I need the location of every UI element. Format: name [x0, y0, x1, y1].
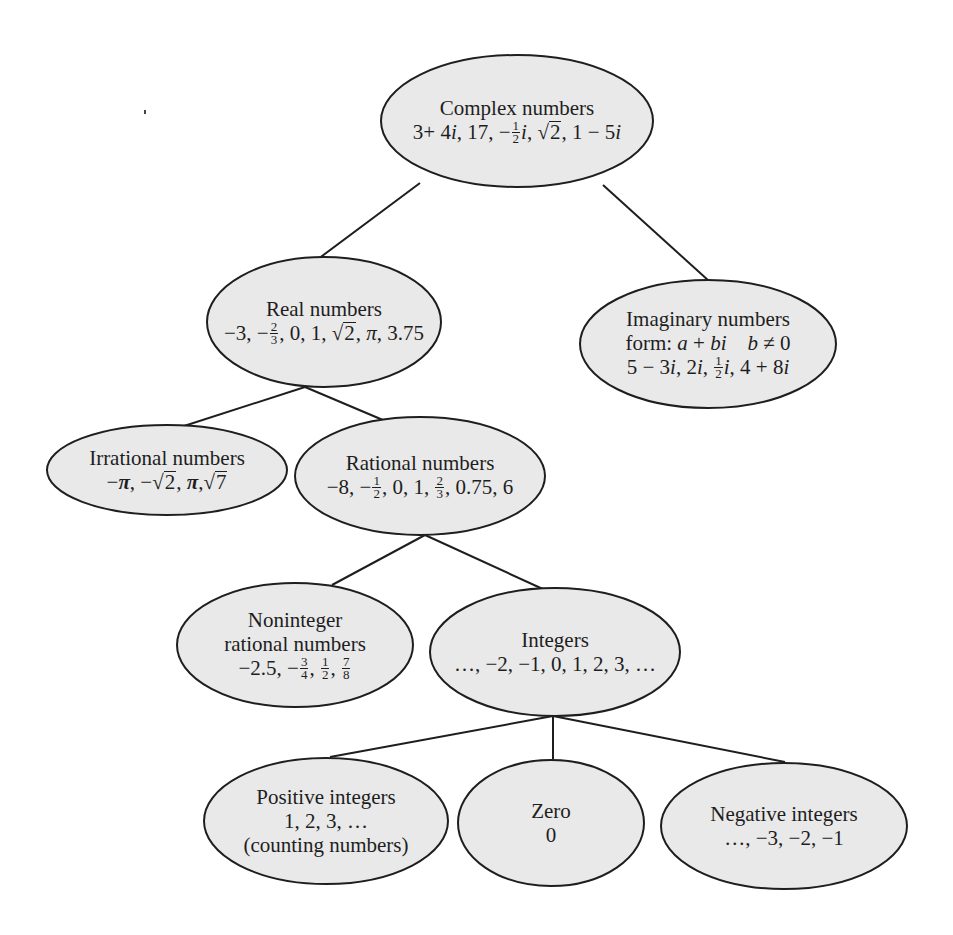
variable-b: b: [748, 331, 759, 355]
node-examples: …, −3, −2, −1: [724, 826, 844, 850]
square-root: √7: [203, 470, 227, 494]
node-label: Irrational numbers: [89, 446, 245, 470]
text-fragment: , 17, −: [457, 120, 511, 144]
pi-symbol: π: [118, 470, 129, 494]
node-imaginary-numbers: Imaginary numbers form: a + bi b ≠ 0 5 −…: [580, 280, 836, 408]
node-integers: Integers …, −2, −1, 0, 1, 2, 3, …: [430, 588, 680, 716]
pi-symbol: π: [187, 470, 198, 494]
square-root: √2: [152, 470, 176, 494]
imaginary-unit: i: [783, 355, 789, 379]
imaginary-unit: i: [615, 120, 621, 144]
node-examples: −π, −√2, π,√7: [107, 470, 228, 494]
text-fragment: 3+ 4: [413, 120, 451, 144]
radicand: 2: [343, 322, 356, 343]
node-examples: 1, 2, 3, …: [284, 809, 368, 833]
text-fragment: , 2: [676, 355, 697, 379]
node-rational-numbers: Rational numbers −8, −12, 0, 1, 23, 0.75…: [295, 417, 545, 535]
fraction: 12: [321, 656, 330, 681]
variable-a: a: [677, 331, 688, 355]
fraction: 12: [512, 120, 521, 145]
node-positive-integers: Positive integers 1, 2, 3, … (counting n…: [204, 758, 448, 884]
node-examples: 0: [546, 823, 557, 847]
edge-integers-positive: [330, 716, 553, 757]
text-fragment: −3, −: [224, 321, 269, 345]
denominator: 2: [714, 368, 723, 380]
spacer: [727, 331, 748, 355]
edge-rational-integers: [425, 535, 545, 590]
radicand: 2: [164, 471, 177, 492]
denominator: 3: [435, 488, 444, 500]
node-examples: −3, −23, 0, 1, √2, π, 3.75: [224, 321, 424, 348]
text-fragment: 5 − 3: [627, 355, 670, 379]
node-label: Imaginary numbers: [626, 307, 790, 331]
pi-symbol: π: [366, 321, 377, 345]
radicand: 2: [549, 121, 562, 142]
fraction: 23: [270, 321, 279, 346]
text-fragment: −8, −: [327, 475, 372, 499]
text-fragment: ,: [356, 321, 367, 345]
node-examples: 3+ 4i, 17, −12i, √2, 1 − 5i: [413, 120, 621, 147]
node-label: Zero: [531, 799, 571, 823]
square-root: √2: [332, 321, 356, 345]
text-fragment: ,: [527, 120, 538, 144]
text-fragment: , 0, 1,: [382, 475, 435, 499]
text-fragment: ,: [309, 656, 320, 680]
node-noninteger-rational-numbers: Noninteger rational numbers −2.5, −34, 1…: [177, 583, 413, 707]
text-fragment: +: [688, 331, 710, 355]
edge-rational-noninteger: [332, 535, 425, 585]
node-note: (counting numbers): [243, 833, 408, 857]
text-fragment: , 0.75, 6: [445, 475, 513, 499]
text-fragment: ≠ 0: [758, 331, 791, 355]
node-zero: Zero 0: [458, 760, 644, 886]
node-label-line2: rational numbers: [224, 632, 366, 656]
edge-real-irrational: [184, 387, 305, 426]
node-examples: …, −2, −1, 0, 1, 2, 3, …: [454, 652, 656, 676]
text-fragment: −: [107, 470, 119, 494]
fraction: 12: [714, 355, 723, 380]
fraction: 34: [300, 656, 309, 681]
denominator: 2: [321, 669, 330, 681]
node-label: Negative integers: [710, 802, 858, 826]
radicand: 7: [215, 471, 228, 492]
node-complex-numbers: Complex numbers 3+ 4i, 17, −12i, √2, 1 −…: [381, 55, 653, 187]
edge-complex-real: [306, 183, 420, 268]
node-form: form: a + bi b ≠ 0: [625, 331, 790, 355]
fraction: 78: [342, 656, 351, 681]
denominator: 4: [300, 669, 309, 681]
node-real-numbers: Real numbers −3, −23, 0, 1, √2, π, 3.75: [207, 257, 441, 387]
node-examples: 5 − 3i, 2i, 12i, 4 + 8i: [627, 355, 790, 382]
square-root: √2: [537, 120, 561, 144]
denominator: 8: [342, 669, 351, 681]
node-negative-integers: Negative integers …, −3, −2, −1: [661, 763, 907, 889]
text-fragment: , 1 − 5: [561, 120, 615, 144]
denominator: 2: [372, 488, 381, 500]
text-fragment: −2.5, −: [239, 656, 299, 680]
node-irrational-numbers: Irrational numbers −π, −√2, π,√7: [47, 425, 287, 515]
text-fragment: ,: [330, 656, 341, 680]
denominator: 2: [512, 133, 521, 145]
text-fragment: , −: [130, 470, 152, 494]
text-fragment: ,: [176, 470, 187, 494]
fraction: 23: [435, 475, 444, 500]
fraction: 12: [372, 475, 381, 500]
node-label: Integers: [521, 628, 589, 652]
text-fragment: , 0, 1,: [279, 321, 332, 345]
node-label: Positive integers: [256, 785, 395, 809]
text-fragment: ,: [703, 355, 714, 379]
node-label: Rational numbers: [346, 451, 495, 475]
text-fragment: form:: [625, 331, 677, 355]
edge-complex-imaginary: [603, 185, 709, 281]
text-fragment: , 3.75: [377, 321, 424, 345]
edge-integers-negative: [553, 716, 785, 762]
variable-bi: bi: [710, 331, 726, 355]
denominator: 3: [270, 334, 279, 346]
node-label: Real numbers: [266, 297, 382, 321]
node-label: Complex numbers: [440, 96, 595, 120]
node-examples: −8, −12, 0, 1, 23, 0.75, 6: [327, 475, 513, 502]
node-examples: −2.5, −34, 12, 78: [239, 656, 352, 683]
node-label-line1: Noninteger: [248, 608, 342, 632]
text-fragment: , 4 + 8: [730, 355, 784, 379]
